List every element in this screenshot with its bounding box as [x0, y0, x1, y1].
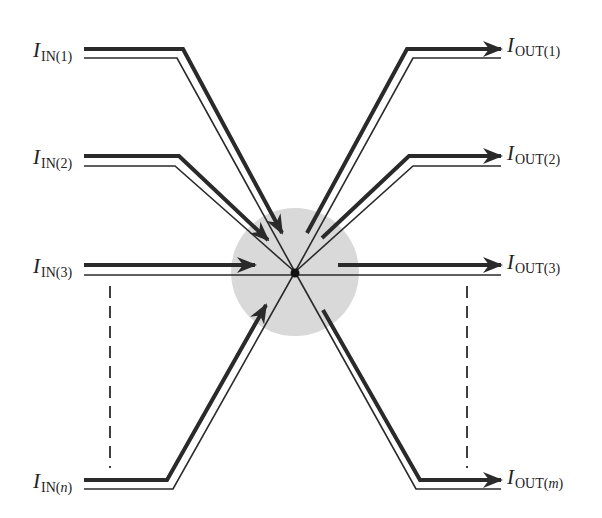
- label-out-2: IOUT(2): [507, 143, 560, 164]
- label-in-1: IIN(1): [33, 40, 72, 61]
- arrow-in-1: [84, 49, 282, 233]
- arrow-out-1: [307, 49, 501, 233]
- arrow-in-2: [84, 156, 268, 240]
- label-in-n: IIN(n): [33, 471, 72, 492]
- label-in-3: IIN(3): [33, 256, 72, 277]
- arrow-out-m: [323, 310, 501, 480]
- label-out-1: IOUT(1): [507, 35, 560, 56]
- label-out-m: IOUT(m): [507, 467, 563, 488]
- arrow-in-n: [84, 305, 266, 480]
- label-out-3: IOUT(3): [507, 252, 560, 273]
- junction-node: [291, 269, 300, 278]
- label-in-2: IIN(2): [33, 147, 72, 168]
